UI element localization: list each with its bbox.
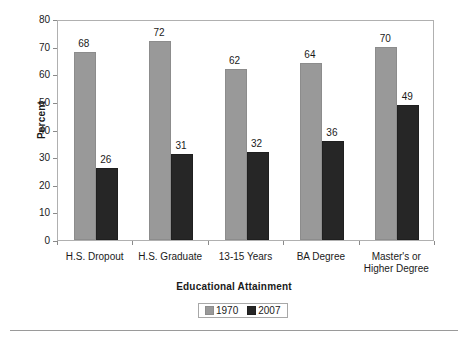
- bar-value-label: 68: [64, 39, 104, 49]
- x-tick-mark: [283, 241, 284, 245]
- bar-value-label: 72: [139, 28, 179, 38]
- bar-2007-2: [247, 152, 269, 240]
- bar-value-label: 62: [215, 56, 255, 66]
- y-tick-label: 70: [26, 43, 50, 53]
- bar-value-label: 49: [387, 92, 427, 102]
- legend-label-2007: 2007: [258, 306, 280, 316]
- x-axis-title: Educational Attainment: [0, 281, 468, 292]
- y-tick-label: 20: [26, 181, 50, 191]
- y-tick-label: 60: [26, 70, 50, 80]
- legend-swatch-1970: [205, 306, 214, 315]
- y-tick-label: 50: [26, 98, 50, 108]
- x-category-label-line: Master's or: [351, 251, 442, 263]
- bar-value-label: 32: [237, 139, 277, 149]
- plot-area: [57, 20, 434, 241]
- bar-2007-3: [322, 141, 344, 240]
- y-tick-label: 40: [26, 126, 50, 136]
- bar-2007-0: [96, 168, 118, 240]
- bar-value-label: 64: [290, 50, 330, 60]
- x-tick-mark: [434, 241, 435, 245]
- bar-value-label: 31: [161, 141, 201, 151]
- legend-swatch-2007: [247, 306, 256, 315]
- legend-entry-2007: 2007: [247, 306, 280, 316]
- y-tick-label: 10: [26, 208, 50, 218]
- x-tick-mark: [359, 241, 360, 245]
- x-category-label-line: Higher Degree: [351, 263, 442, 275]
- bottom-divider: [10, 330, 458, 331]
- bar-1970-3: [300, 63, 322, 240]
- legend-entry-1970: 1970: [205, 306, 238, 316]
- bar-1970-2: [225, 69, 247, 240]
- bar-2007-4: [397, 105, 419, 240]
- bar-value-label: 36: [312, 128, 352, 138]
- bar-2007-1: [171, 154, 193, 240]
- x-tick-mark: [208, 241, 209, 245]
- bar-1970-4: [375, 47, 397, 240]
- bar-value-label: 70: [365, 34, 405, 44]
- chart-legend: 1970 2007: [198, 303, 288, 318]
- y-tick-label: 80: [26, 15, 50, 25]
- bar-value-label: 26: [86, 155, 126, 165]
- x-tick-mark: [132, 241, 133, 245]
- bar-chart-figure: Percent 01020304050607080 68267231623264…: [0, 0, 468, 345]
- y-tick-label: 0: [26, 236, 50, 246]
- bar-1970-0: [74, 52, 96, 240]
- legend-label-1970: 1970: [216, 306, 238, 316]
- x-category-label: Master's orHigher Degree: [351, 251, 442, 275]
- x-tick-mark: [57, 241, 58, 245]
- y-tick-label: 30: [26, 153, 50, 163]
